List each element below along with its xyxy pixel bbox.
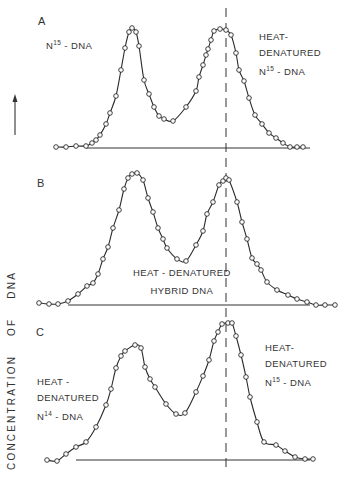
label-line: HYBRID DNA	[133, 282, 231, 300]
data-point-marker	[333, 303, 338, 308]
data-point-marker	[194, 243, 199, 248]
data-point-marker	[212, 339, 217, 344]
data-point-marker	[152, 105, 157, 110]
data-point-marker	[288, 145, 293, 150]
data-point-marker	[206, 47, 211, 52]
data-point-marker	[85, 284, 90, 289]
data-point-marker	[265, 280, 270, 285]
data-point-marker	[76, 292, 81, 297]
data-point-marker	[283, 449, 288, 454]
data-point-marker	[201, 63, 206, 68]
data-point-marker	[220, 322, 225, 327]
data-point-marker	[201, 229, 206, 234]
data-point-marker	[184, 105, 189, 110]
y-axis-arrow-icon	[13, 94, 18, 135]
data-point-marker	[123, 46, 128, 51]
data-point-marker	[260, 122, 265, 127]
data-point-marker	[207, 358, 212, 363]
data-point-marker	[301, 145, 306, 150]
label-line: DENATURED	[265, 356, 327, 372]
data-point-marker	[216, 330, 221, 335]
data-point-marker	[212, 29, 217, 34]
data-point-marker	[161, 237, 166, 242]
data-point-marker	[305, 300, 310, 305]
data-point-marker	[96, 272, 101, 277]
data-point-marker	[239, 353, 244, 358]
data-point-marker	[162, 117, 167, 122]
data-point-marker	[98, 133, 103, 138]
data-point-marker	[126, 176, 131, 181]
data-point-marker	[146, 196, 151, 201]
data-point-marker	[286, 293, 291, 298]
data-point-marker	[55, 459, 60, 464]
data-point-marker	[143, 365, 148, 370]
data-point-marker	[247, 96, 252, 101]
data-point-marker	[234, 51, 239, 56]
data-point-marker	[54, 145, 59, 150]
data-point-marker	[255, 262, 260, 267]
data-point-marker	[135, 171, 140, 176]
label-text: - DNA	[61, 40, 92, 51]
data-point-marker	[84, 144, 89, 149]
data-point-marker	[130, 172, 135, 177]
data-point-marker	[218, 27, 223, 32]
data-point-marker	[245, 237, 250, 242]
data-point-marker	[281, 141, 286, 146]
data-point-marker	[217, 183, 222, 188]
data-point-marker	[130, 26, 135, 31]
data-point-marker	[64, 452, 69, 457]
data-point-marker	[45, 458, 50, 463]
y-axis-label: CONCENTRATION OF DNA	[6, 271, 17, 470]
data-point-marker	[250, 256, 255, 261]
data-point-marker	[274, 443, 279, 448]
data-point-marker	[323, 303, 328, 308]
data-point-marker	[275, 288, 280, 293]
panel-b-hybrid-label: HEAT - DENATURED HYBRID DNA	[133, 264, 231, 300]
panel-c-letter: C	[36, 326, 44, 338]
data-point-marker	[122, 187, 127, 192]
data-point-marker	[134, 30, 139, 35]
data-point-marker	[114, 94, 119, 99]
data-point-marker	[123, 349, 128, 354]
data-point-marker	[127, 30, 132, 35]
data-point-marker	[244, 375, 249, 380]
data-point-marker	[47, 302, 52, 307]
data-point-marker	[109, 387, 114, 392]
panel-c-heat-denatured-n14-label: HEAT - DENATURED N14 - DNA	[37, 374, 99, 425]
data-point-marker	[94, 138, 99, 143]
data-point-marker	[64, 145, 69, 150]
data-point-marker	[235, 200, 240, 205]
data-point-marker	[314, 303, 319, 308]
data-point-marker	[119, 68, 124, 73]
data-point-marker	[255, 420, 260, 425]
data-point-marker	[148, 377, 153, 382]
data-point-marker	[114, 366, 119, 371]
data-point-marker	[133, 343, 138, 348]
data-point-marker	[74, 445, 79, 450]
data-point-marker	[142, 78, 147, 83]
data-point-marker	[139, 346, 144, 351]
data-point-marker	[108, 111, 113, 116]
panel-b-letter: B	[37, 177, 44, 189]
data-point-marker	[106, 245, 111, 250]
label-line: N15 - DNA	[265, 372, 327, 391]
data-point-marker	[156, 226, 161, 231]
data-point-marker	[230, 321, 235, 326]
panel-a-letter: A	[38, 15, 45, 27]
data-point-marker	[74, 144, 79, 149]
data-point-marker	[183, 411, 188, 416]
data-point-marker	[101, 257, 106, 262]
label-line: HEAT-	[265, 340, 327, 356]
dna-density-gradient-figure: CONCENTRATION OF DNA A N15 - DNA HEAT- D…	[0, 0, 353, 487]
label-line: DENATURED	[37, 390, 99, 406]
data-point-marker	[153, 385, 158, 390]
data-point-marker	[197, 75, 202, 80]
data-point-marker	[119, 354, 124, 359]
data-point-marker	[37, 301, 42, 306]
data-point-marker	[240, 220, 245, 225]
data-point-marker	[194, 390, 199, 395]
label-text: - DNA	[274, 66, 305, 77]
data-point-marker	[104, 122, 109, 127]
data-point-marker	[262, 440, 267, 445]
data-point-marker	[175, 257, 180, 262]
